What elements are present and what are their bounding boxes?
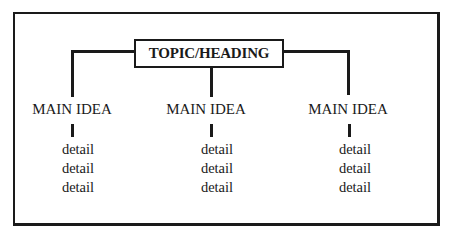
connector-right-horizontal <box>283 50 350 53</box>
topic-heading: TOPIC/HEADING <box>149 45 269 62</box>
connector-right-vertical <box>347 50 350 95</box>
main-idea-2-tick <box>210 124 213 137</box>
connector-left-vertical <box>71 50 74 97</box>
detail-item: detail <box>315 140 395 159</box>
main-idea-1-tick <box>71 124 74 137</box>
connector-center-vertical <box>210 67 213 97</box>
main-idea-3: MAIN IDEA <box>288 101 408 118</box>
connector-left-horizontal <box>71 50 135 53</box>
details-list-2: detail detail detail <box>177 140 257 197</box>
main-idea-1: MAIN IDEA <box>12 101 132 118</box>
detail-item: detail <box>315 178 395 197</box>
topic-heading-box: TOPIC/HEADING <box>134 39 284 68</box>
detail-item: detail <box>177 159 257 178</box>
main-idea-2: MAIN IDEA <box>146 101 266 118</box>
details-list-3: detail detail detail <box>315 140 395 197</box>
detail-item: detail <box>177 178 257 197</box>
detail-item: detail <box>38 178 118 197</box>
detail-item: detail <box>177 140 257 159</box>
main-idea-3-tick <box>348 124 351 137</box>
detail-item: detail <box>38 140 118 159</box>
detail-item: detail <box>38 159 118 178</box>
details-list-1: detail detail detail <box>38 140 118 197</box>
detail-item: detail <box>315 159 395 178</box>
